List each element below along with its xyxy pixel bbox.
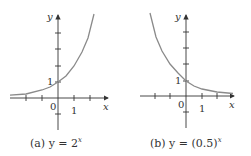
- caption-b-exponent: x: [218, 136, 222, 144]
- panel-b-graph: y x 1 0 1: [140, 11, 235, 128]
- y-tick-label-1: 1: [175, 75, 181, 86]
- y-tick-label-1: 1: [47, 76, 53, 87]
- caption-b: (b) y = (0.5)x: [150, 136, 222, 150]
- caption-a: (a) y = 2x: [30, 136, 82, 150]
- caption-b-text: (b) y = (0.5): [150, 137, 218, 150]
- caption-a-exponent: x: [78, 136, 82, 144]
- x-axis-label: x: [103, 101, 109, 112]
- exponential-graphs: y x 1 0 1 y x 1 0 1: [0, 0, 251, 156]
- x-tick-label-1: 1: [71, 105, 77, 116]
- panel-a-graph: y x 1 0 1: [10, 11, 109, 130]
- y-axis-label: y: [174, 11, 181, 22]
- x-axis-label: x: [229, 99, 235, 110]
- origin-label: 0: [178, 99, 184, 110]
- y-axis-label: y: [46, 11, 53, 22]
- caption-a-text: (a) y = 2: [30, 137, 78, 150]
- curve-half-pow-x: [150, 13, 233, 94]
- x-tick-label-1: 1: [199, 103, 205, 114]
- origin-label: 0: [50, 101, 56, 112]
